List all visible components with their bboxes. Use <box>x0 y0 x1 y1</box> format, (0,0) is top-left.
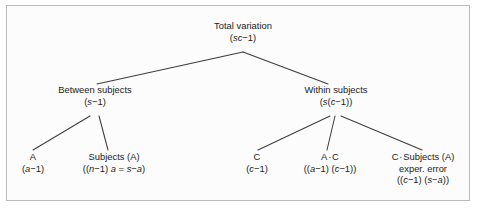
edge-root-to-between <box>97 52 243 84</box>
node-subjects-a: Subjects (A) ((n−1) a = s−a) <box>83 151 145 174</box>
figure-container: Total variation (sc−1) Between subjects … <box>0 0 478 211</box>
multiplication-dot-icon: · <box>399 151 402 162</box>
node-between-subjects-title: Between subjects <box>58 84 131 96</box>
edge-between-to-subjects-a <box>99 116 108 150</box>
node-c-by-subjects-a-df: ((c−1) (s−a)) <box>392 174 455 186</box>
node-factor-c: C (c−1) <box>246 151 268 174</box>
node-total-variation-df: (sc−1) <box>214 32 272 44</box>
node-between-subjects-df: (s−1) <box>58 96 131 108</box>
edge-within-to-factor-c <box>258 116 330 150</box>
node-c-by-subjects-a-error-label: exper. error <box>392 163 455 175</box>
node-factor-a-df: (a−1) <box>22 163 44 175</box>
node-factor-c-df: (c−1) <box>246 163 268 175</box>
node-within-subjects-df: (s(c−1)) <box>304 96 367 108</box>
node-a-by-c: A · C ((a−1) (c−1)) <box>304 151 357 174</box>
node-factor-a-title: A <box>22 151 44 163</box>
node-factor-a: A (a−1) <box>22 151 44 174</box>
node-factor-c-title: C <box>246 151 268 163</box>
node-within-subjects-title: Within subjects <box>304 84 367 96</box>
edge-within-to-c-by-subjects <box>341 116 422 150</box>
node-a-by-c-df: ((a−1) (c−1)) <box>304 163 357 175</box>
node-subjects-a-title: Subjects (A) <box>83 151 145 163</box>
node-between-subjects: Between subjects (s−1) <box>58 84 131 107</box>
node-c-by-subjects-a: C · Subjects (A) exper. error ((c−1) (s−… <box>392 151 455 186</box>
edge-within-to-a-by-c <box>327 116 335 150</box>
edge-between-to-factor-a <box>33 116 90 150</box>
node-a-by-c-title: A · C <box>304 151 357 163</box>
node-within-subjects: Within subjects (s(c−1)) <box>304 84 367 107</box>
node-c-by-subjects-a-title: C · Subjects (A) <box>392 151 455 163</box>
edge-root-to-within <box>243 52 328 84</box>
node-total-variation: Total variation (sc−1) <box>214 20 272 43</box>
node-total-variation-title: Total variation <box>214 20 272 32</box>
node-subjects-a-df: ((n−1) a = s−a) <box>83 163 145 175</box>
